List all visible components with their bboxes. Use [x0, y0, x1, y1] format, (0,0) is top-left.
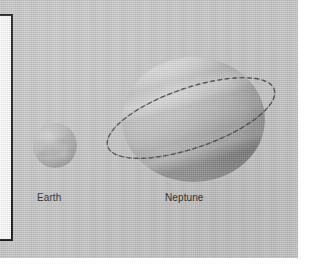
neptune-limb-shading — [122, 57, 265, 182]
earth-limb-shading — [33, 123, 77, 168]
cropped-white-frame-box — [0, 14, 13, 241]
planet-neptune — [122, 57, 265, 182]
photo-plate: Earth Neptune — [0, 0, 298, 258]
planet-label-earth: Earth — [37, 192, 61, 203]
figure-canvas: Earth Neptune — [0, 0, 313, 264]
planet-label-neptune: Neptune — [165, 192, 204, 203]
planet-earth — [33, 123, 77, 168]
